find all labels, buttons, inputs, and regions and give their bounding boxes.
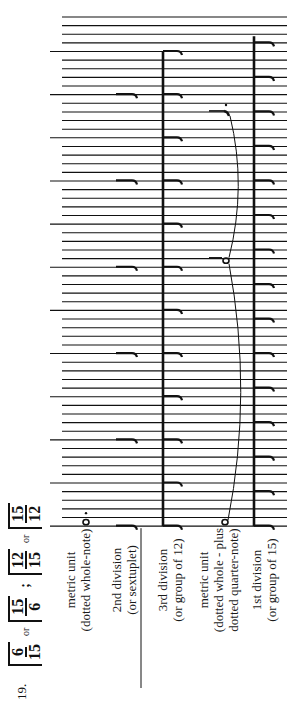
- column-label: metric unit(dotted whole-note): [63, 520, 93, 640]
- division-flag: [163, 310, 182, 314]
- label-line: metric unit: [63, 520, 78, 640]
- division-flag: [254, 180, 274, 184]
- division-flag: [163, 483, 182, 487]
- ts-denominator: 12: [27, 506, 42, 522]
- label-line: (dotted whole-note): [78, 520, 93, 640]
- division-flag: [163, 137, 182, 141]
- division-flag: [254, 77, 274, 81]
- separator: ;: [17, 583, 33, 588]
- tie-curve: [229, 116, 238, 258]
- label-line: (or group of 12): [170, 520, 185, 640]
- ts-numerator: 15: [10, 505, 27, 523]
- ts-numerator: 6: [10, 647, 27, 657]
- time-signature: 156: [8, 596, 42, 622]
- label-line: 1st division: [249, 520, 264, 640]
- division-flag: [163, 180, 182, 184]
- label-line: (or sextuplet): [124, 520, 139, 640]
- division-flag: [163, 51, 182, 55]
- time-signature: 615: [8, 642, 42, 666]
- column-label: 2nd division(or sextuplet): [109, 520, 139, 640]
- whole-note-head: [223, 258, 229, 263]
- augmentation-dot: [225, 104, 227, 106]
- ts-denominator: 6: [27, 603, 42, 611]
- division-flag: [254, 491, 274, 495]
- division-flag: [163, 353, 182, 357]
- label-line: dotted quarter-note): [226, 520, 241, 640]
- separator: or: [20, 535, 31, 543]
- ts-denominator: 15: [27, 552, 42, 568]
- division-flag: [254, 284, 274, 288]
- division-flag: [254, 250, 274, 254]
- division-flag: [163, 396, 182, 400]
- label-line: (dotted whole - plus: [211, 520, 226, 640]
- example-number: 19.: [14, 684, 30, 700]
- division-flag: [254, 457, 274, 461]
- eighth-flag: [116, 94, 137, 98]
- column-label: 1st division(or group of 15): [249, 520, 279, 640]
- time-signature: 1215: [8, 549, 42, 575]
- separator: or: [20, 628, 31, 636]
- division-flag: [254, 388, 274, 392]
- division-flag: [254, 111, 274, 115]
- time-signatures: 615or156;1215or1512: [8, 501, 42, 668]
- eighth-flag: [116, 439, 137, 443]
- division-flag: [163, 94, 182, 98]
- column-label: metric unit(dotted whole - plusdotted qu…: [196, 520, 241, 640]
- ts-denominator: 15: [27, 644, 42, 660]
- label-line: (or group of 15): [264, 520, 279, 640]
- label-line: 2nd division: [109, 520, 124, 640]
- ts-numerator: 15: [10, 598, 27, 616]
- label-line: metric unit: [196, 520, 211, 640]
- division-flag: [163, 439, 182, 443]
- division-flag: [254, 215, 274, 219]
- division-flag: [254, 319, 274, 323]
- division-flag: [254, 42, 274, 46]
- division-flag: [254, 353, 274, 357]
- eighth-flag: [116, 180, 137, 184]
- eighth-flag: [116, 267, 137, 271]
- division-flag: [254, 146, 274, 150]
- label-line: 3rd division: [155, 520, 170, 640]
- eighth-flag: [116, 353, 137, 357]
- column-label: 3rd division(or group of 12): [155, 520, 185, 640]
- division-flag: [163, 267, 182, 271]
- division-flag: [163, 224, 182, 228]
- division-flag: [254, 422, 274, 426]
- ts-numerator: 12: [10, 551, 27, 569]
- augmentation-dot: [85, 512, 87, 514]
- time-signature: 1512: [8, 503, 42, 529]
